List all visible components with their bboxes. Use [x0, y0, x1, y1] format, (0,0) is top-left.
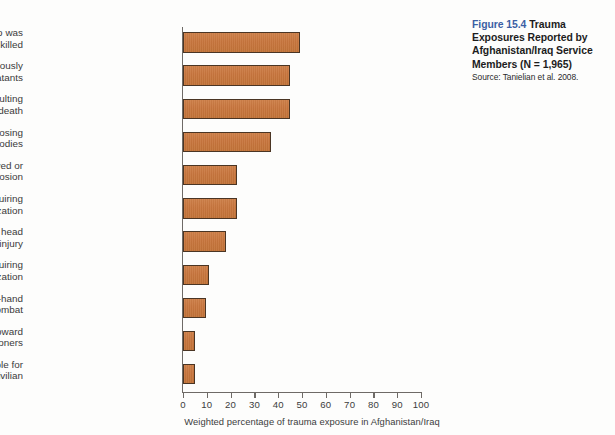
bar-fill — [183, 231, 226, 251]
figure-number: Figure 15.4 — [472, 19, 526, 30]
x-tick — [421, 393, 422, 398]
bar-category-label: Having a friend who wasseriously wounded… — [0, 27, 23, 50]
bar — [183, 265, 209, 285]
chart-row: Witnessing brutality towarddetainees/pri… — [0, 326, 460, 359]
bar-chart: Having a friend who wasseriously wounded… — [0, 0, 460, 435]
caption-source: Source: Tanielian et al. 2008. — [472, 72, 610, 83]
bar-category-label: Engaging in hand-to-handcombat — [0, 293, 23, 316]
bar-category-label: Being injured, requiringhospitalization — [0, 259, 23, 282]
chart-row: Engaging in hand-to-handcombat — [0, 293, 460, 326]
bar-fill — [183, 132, 271, 152]
x-tick — [302, 393, 303, 398]
bar — [183, 298, 206, 318]
caption-heading: Figure 15.4 Trauma Exposures Reported by… — [472, 18, 610, 71]
x-tick — [207, 393, 208, 398]
bar-fill — [183, 198, 237, 218]
bar-fill — [183, 65, 290, 85]
chart-row: Smelling decomposingbodies — [0, 127, 460, 160]
bar-fill — [183, 298, 206, 318]
bar — [183, 364, 195, 384]
bar-fill — [183, 165, 237, 185]
chart-row: Being physically moved orknocked over by… — [0, 160, 460, 193]
chart-rows: Having a friend who wasseriously wounded… — [0, 27, 460, 392]
x-tick — [326, 393, 327, 398]
chart-row: Having a blow to the headfrom any accide… — [0, 226, 460, 259]
x-tick — [231, 393, 232, 398]
bar-fill — [183, 331, 195, 351]
bar-category-label: Having a blow to the headfrom any accide… — [0, 226, 23, 249]
bar — [183, 331, 195, 351]
y-axis-line — [182, 27, 183, 393]
x-tick — [254, 393, 255, 398]
x-axis-title: Weighted percentage of trauma exposure i… — [112, 416, 512, 427]
chart-row: Being injured, not requiringhospitalizat… — [0, 193, 460, 226]
x-tick — [397, 393, 398, 398]
chart-row: Being responsible forthe death of a civi… — [0, 359, 460, 392]
figure-caption: Figure 15.4 Trauma Exposures Reported by… — [472, 18, 610, 83]
bar-category-label: Witnessing brutality towarddetainees/pri… — [0, 326, 23, 349]
x-tick — [278, 393, 279, 398]
bar — [183, 99, 290, 119]
bar — [183, 165, 237, 185]
bar-category-label: Being physically moved orknocked over by… — [0, 160, 23, 183]
bar — [183, 231, 226, 251]
x-tick — [183, 393, 184, 398]
chart-row: Seeing dead or seriouslyinjured noncomba… — [0, 60, 460, 93]
bar-category-label: Being injured, not requiringhospitalizat… — [0, 193, 23, 216]
bar — [183, 65, 290, 85]
chart-row: Being injured, requiringhospitalization — [0, 259, 460, 292]
bar — [183, 198, 237, 218]
x-tick — [373, 393, 374, 398]
chart-row: Witnessing an accident resultingin serio… — [0, 93, 460, 126]
bar — [183, 132, 271, 152]
bar-category-label: Witnessing an accident resultingin serio… — [0, 93, 23, 116]
bar-category-label: Being responsible forthe death of a civi… — [0, 359, 23, 382]
bar-fill — [183, 32, 300, 52]
bar-fill — [183, 364, 195, 384]
figure-container: Having a friend who wasseriously wounded… — [0, 0, 615, 435]
bar-fill — [183, 265, 209, 285]
chart-row: Having a friend who wasseriously wounded… — [0, 27, 460, 60]
x-tick-label: 100 — [406, 399, 436, 410]
x-tick — [350, 393, 351, 398]
bar-fill — [183, 99, 290, 119]
bar-category-label: Smelling decomposingbodies — [0, 127, 23, 150]
bar-category-label: Seeing dead or seriouslyinjured noncomba… — [0, 60, 23, 83]
bar — [183, 32, 300, 52]
